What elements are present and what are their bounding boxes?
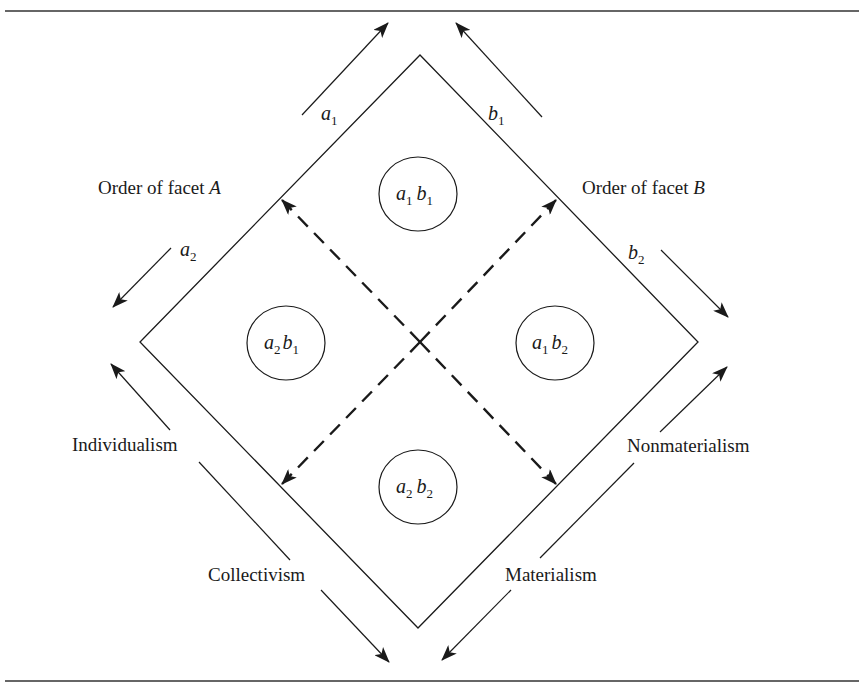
label-a1: a1 <box>321 102 338 128</box>
arrow-b2 <box>661 250 728 317</box>
arrow-collectivism <box>321 590 389 662</box>
svg-text:a1b2: a1b2 <box>532 331 568 357</box>
arrow-nonmaterialism <box>660 367 727 432</box>
facet-diamond-diagram: a1 b1 a2 b2 Order of facet A Order of fa… <box>0 0 864 685</box>
dashed-axis-arrows <box>282 200 556 484</box>
arrow-materialism <box>442 590 511 660</box>
label-nonmaterialism: Nonmaterialism <box>627 435 750 456</box>
label-individualism: Individualism <box>72 434 178 455</box>
label-collectivism: Collectivism <box>208 564 305 585</box>
cell-a1b1: a1b1 <box>379 157 457 231</box>
diagram-canvas: a1 b1 a2 b2 Order of facet A Order of fa… <box>0 0 864 685</box>
label-a2: a2 <box>180 238 197 264</box>
line-collectivism-upper <box>199 462 290 560</box>
arrow-b1 <box>456 23 542 117</box>
cell-a1b2: a1b2 <box>516 306 594 380</box>
arrow-a2 <box>113 248 171 307</box>
label-b1: b1 <box>488 102 505 128</box>
svg-text:a2b2: a2b2 <box>396 475 433 501</box>
label-order-of-facet-a: Order of facet A <box>98 177 221 198</box>
label-order-of-facet-b: Order of facet B <box>582 177 705 198</box>
dashed-arrow-to-materialism-edge <box>420 342 556 484</box>
dashed-arrow-to-facet-a <box>282 200 420 342</box>
line-materialism-upper <box>540 463 634 558</box>
cell-a2b2: a2b2 <box>379 450 457 524</box>
svg-text:a1b1: a1b1 <box>396 182 433 208</box>
cell-a2b1: a2b1 <box>247 306 325 380</box>
dashed-arrow-to-collectivism-edge <box>282 342 420 484</box>
label-materialism: Materialism <box>505 564 597 585</box>
arrow-individualism <box>111 364 170 430</box>
label-b2: b2 <box>628 241 645 267</box>
svg-text:a2b1: a2b1 <box>264 331 299 357</box>
dashed-arrow-to-facet-b <box>420 200 556 342</box>
